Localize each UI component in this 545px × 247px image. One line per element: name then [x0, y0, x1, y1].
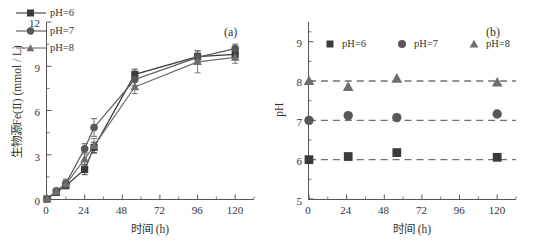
legend-b: pH=6 pH=7 pH=8 — [324, 38, 510, 50]
legend-item-ph7-a: pH=7 — [16, 26, 74, 37]
panel-b: 5 6 7 8 9 0 24 48 72 96 120 时间 (h) pH (b… — [272, 0, 545, 247]
xtick-b-5: 120 — [485, 205, 509, 216]
legend-label-ph6-a: pH=6 — [50, 8, 74, 19]
xtick-b-1: 24 — [334, 205, 358, 216]
legend-marker-square-icon — [324, 38, 336, 50]
legend-label-ph8-a: pH=8 — [50, 43, 74, 54]
figure-container: 0 3 6 9 12 0 24 48 72 96 120 时间 (h) 生物源F… — [0, 0, 545, 247]
xaxis-title-a: 时间 (h) — [46, 224, 254, 236]
xtick-b-3: 72 — [410, 205, 434, 216]
legend-item-ph6-b: pH=6 — [324, 38, 366, 50]
xtick-b-4: 96 — [447, 205, 471, 216]
xtick-b-2: 48 — [372, 205, 396, 216]
xtick-a-0: 0 — [34, 205, 58, 216]
legend-item-ph6-a: pH=6 — [16, 8, 74, 19]
legend-label-ph8-b: pH=8 — [486, 39, 510, 50]
legend-item-ph8-b: pH=8 — [468, 38, 510, 50]
legend-marker-triangle-icon — [468, 38, 480, 50]
panel-tag-a: (a) — [224, 26, 237, 38]
xtick-a-5: 120 — [223, 205, 247, 216]
legend-label-ph7-b: pH=7 — [414, 39, 438, 50]
legend-item-ph8-a: pH=8 — [16, 43, 74, 54]
xtick-a-1: 24 — [72, 205, 96, 216]
xtick-a-2: 48 — [110, 205, 134, 216]
xtick-b-0: 0 — [296, 205, 320, 216]
legend-key-square-icon — [16, 8, 46, 18]
ytick-b-4: 9 — [278, 38, 302, 49]
legend-a: pH=6 pH=7 pH=8 — [16, 8, 74, 54]
legend-key-circle-icon — [16, 26, 46, 36]
legend-key-triangle-icon — [16, 43, 46, 53]
legend-item-ph7-b: pH=7 — [396, 38, 438, 50]
ytick-b-1: 6 — [278, 156, 302, 167]
xaxis-title-b: 时间 (h) — [308, 224, 516, 236]
panel-a: 0 3 6 9 12 0 24 48 72 96 120 时间 (h) 生物源F… — [0, 0, 272, 247]
legend-label-ph6-b: pH=6 — [342, 39, 366, 50]
panel-tag-b: (b) — [486, 26, 500, 38]
xtick-a-3: 72 — [148, 205, 172, 216]
plot-area-a — [46, 22, 254, 200]
legend-marker-circle-icon — [396, 38, 408, 50]
xtick-a-4: 96 — [185, 205, 209, 216]
legend-label-ph7-a: pH=7 — [50, 26, 74, 37]
chart-canvas-a — [47, 22, 254, 199]
yaxis-title-b: pH — [274, 80, 286, 140]
